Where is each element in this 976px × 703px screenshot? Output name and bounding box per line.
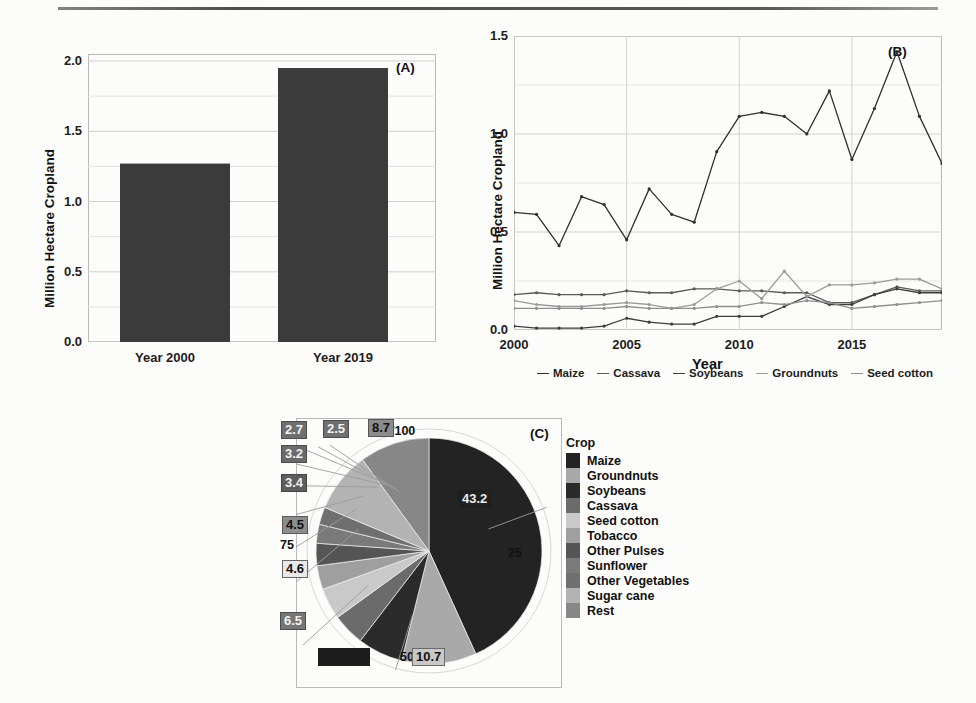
panel-c-legend-label: Other Pulses [587,544,664,558]
legend-swatch [566,543,580,558]
legend-swatch [566,498,580,513]
legend-swatch [566,468,580,483]
panel-a-ytick-0: 0.0 [44,334,82,349]
panel-c-tick-75: 75 [278,538,296,552]
panel-c-legend-item-groundnuts[interactable]: Groundnuts [566,468,786,483]
panel-a-bar-chart: (A) Million Hectare Cropland 0.00.51.01.… [0,18,470,388]
figure-page: (A) Million Hectare Cropland 0.00.51.01.… [0,0,976,703]
panel-c-label-groundnuts: 10.7 [412,648,445,666]
panel-b-legend-item-cassava[interactable]: Cassava [597,367,660,379]
panel-c-legend-item-rest[interactable]: Rest [566,603,786,618]
panel-b-legend-label: Cassava [613,367,660,379]
panel-b-xtick-3: 2015 [828,337,876,352]
panel-c-legend-item-other-vegetables[interactable]: Other Vegetables [566,573,786,588]
panel-c-legend-label: Sunflower [587,559,647,573]
panel-b-ytick-0: 0.0 [470,322,508,337]
panel-c-legend-title: Crop [566,436,786,450]
panel-b-legend-item-groundnuts[interactable]: Groundnuts [756,367,838,379]
panel-b-legend-label: Soybeans [689,367,743,379]
panel-b-xtick-1: 2005 [603,337,651,352]
panel-c-legend-item-soybeans[interactable]: Soybeans [566,483,786,498]
panel-c-legend-item-maize[interactable]: Maize [566,453,786,468]
legend-line-icon [597,373,609,374]
legend-line-icon [673,373,685,374]
legend-swatch [566,558,580,573]
panel-c-label-other-vegetables: 2.5 [323,420,349,438]
legend-line-icon [851,373,863,374]
panel-a-ytick-3: 1.5 [44,123,82,138]
panel-c-legend-label: Sugar cane [587,589,654,603]
panel-a-ytick-2: 1.0 [44,194,82,209]
panel-b-legend-label: Seed cotton [867,367,933,379]
panel-c-label-rest [318,648,370,666]
legend-swatch [566,603,580,618]
panel-a-canvas [88,54,436,342]
panel-c-legend: Crop MaizeGroundnutsSoybeansCassavaSeed … [566,436,786,618]
panel-b-legend-item-seed-cotton[interactable]: Seed cotton [851,367,933,379]
panel-c-label-tobacco: 3.4 [281,474,307,492]
panel-c-legend-label: Other Vegetables [587,574,689,588]
panel-b-ytick-2: 1.0 [470,126,508,141]
panel-c-legend-item-cassava[interactable]: Cassava [566,498,786,513]
panel-c-pie-chart: (C) 0/100 25 50 75 2.7 2.5 8.7 3.2 3.4 4… [240,410,800,700]
panel-c-label-cassava: 4.6 [282,560,308,578]
panel-c-legend-item-other-pulses[interactable]: Other Pulses [566,543,786,558]
panel-c-legend-item-tobacco[interactable]: Tobacco [566,528,786,543]
panel-c-label-maize: 43.2 [458,490,491,508]
panel-c-legend-label: Rest [587,604,614,618]
legend-swatch [566,573,580,588]
page-top-rule [58,7,938,10]
panel-a-ytick-4: 2.0 [44,53,82,68]
panel-c-label-other-pulses: 3.2 [281,445,307,463]
panel-b-canvas [514,36,942,330]
panel-c-legend-item-sunflower[interactable]: Sunflower [566,558,786,573]
panel-c-legend-label: Maize [587,454,621,468]
panel-a-category-1: Year 2019 [278,350,408,365]
panel-c-legend-label: Cassava [587,499,638,513]
panel-b-xtick-2: 2010 [715,337,763,352]
panel-c-label-seed-cotton: 4.5 [282,516,308,534]
panel-c-legend-label: Soybeans [587,484,646,498]
panel-b-legend-item-maize[interactable]: Maize [537,367,584,379]
legend-swatch [566,513,580,528]
legend-swatch [566,483,580,498]
panel-c-legend-item-seed-cotton[interactable]: Seed cotton [566,513,786,528]
panel-b-legend-item-soybeans[interactable]: Soybeans [673,367,743,379]
panel-b-line-chart: (B) Million Hectare Cropland Year 0.00.5… [470,18,976,398]
legend-line-icon [537,373,549,374]
panel-b-ytick-1: 0.5 [470,224,508,239]
panel-c-legend-rows: MaizeGroundnutsSoybeansCassavaSeed cotto… [566,453,786,618]
panel-c-label-sugar-cane: 8.7 [368,419,394,437]
panel-c-label-sunflower: 2.7 [281,421,307,439]
panel-b-ytick-3: 1.5 [470,28,508,43]
panel-c-legend-item-sugar-cane[interactable]: Sugar cane [566,588,786,603]
panel-b-legend-label: Maize [553,367,584,379]
panel-a-ytick-1: 0.5 [44,264,82,279]
panel-b-y-axis-label: Million Hectare Cropland [490,131,505,290]
panel-c-legend-label: Seed cotton [587,514,659,528]
panel-b-xtick-0: 2000 [490,337,538,352]
legend-line-icon [756,373,768,374]
panel-a-category-0: Year 2000 [100,350,230,365]
panel-b-legend: MaizeCassavaSoybeansGroundnutsSeed cotto… [500,367,970,379]
panel-c-legend-label: Groundnuts [587,469,659,483]
legend-swatch [566,453,580,468]
legend-swatch [566,588,580,603]
panel-c-tick-25: 25 [508,546,522,560]
panel-b-legend-label: Groundnuts [772,367,838,379]
panel-c-legend-label: Tobacco [587,529,637,543]
legend-swatch [566,528,580,543]
panel-c-label-soybeans: 6.5 [280,612,306,630]
panel-a-y-axis-label: Million Hectare Cropland [42,149,57,308]
